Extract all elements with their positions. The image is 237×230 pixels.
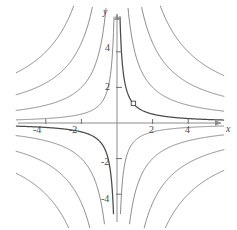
x-tick-label-neg4: -4 [33, 125, 41, 135]
hyperbola-curve [144, 150, 224, 228]
hyperbola-curve [128, 8, 223, 111]
hyperbola-curve [16, 8, 106, 110]
open-square-marker [131, 101, 135, 105]
hyperbola-curve [16, 126, 113, 214]
x-axis-label: x [226, 124, 230, 134]
x-tick-label-pos2: 2 [149, 125, 154, 135]
hyperbola-curve [16, 7, 92, 94]
x-tick-label-neg2: -2 [69, 125, 77, 135]
hyperbola-curve [16, 6, 73, 73]
hyperbola-curve [165, 170, 223, 227]
hyperbola-family-figure: x y -4 -2 2 4 -2 -4 2 4 [0, 0, 237, 230]
x-tick-label-pos4: 4 [185, 125, 190, 135]
y-axis-label: y [103, 7, 107, 17]
hyperbola-curve [16, 136, 104, 224]
plot-canvas [0, 0, 237, 230]
hyperbola-curve [120, 126, 223, 214]
hyperbola-curve [16, 151, 90, 227]
y-tick-label-neg4: -4 [101, 194, 109, 204]
y-tick-label-pos2: 2 [105, 82, 110, 92]
hyperbola-curve [16, 173, 68, 227]
hyperbola-curve [142, 7, 224, 96]
point-marker [131, 101, 135, 105]
hyperbola-curve [160, 6, 223, 75]
y-tick-label-neg2: -2 [101, 157, 109, 167]
hyperbola-curve [130, 135, 224, 224]
y-tick-label-pos4: 4 [105, 43, 110, 53]
